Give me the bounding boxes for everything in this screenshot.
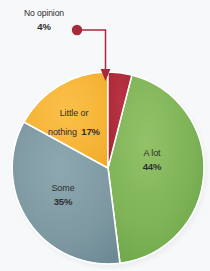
callout-leader-line <box>77 30 106 70</box>
pie-chart-graphic <box>0 0 210 271</box>
pie-chart: A lot 44% Some 35% Little or nothing 17%… <box>0 0 210 271</box>
